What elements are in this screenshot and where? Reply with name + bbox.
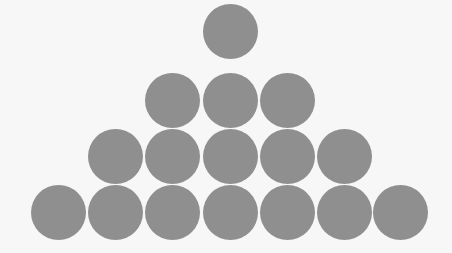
circle-row-4-item-7 — [373, 185, 428, 240]
circle-row-4-item-3 — [145, 185, 200, 240]
circle-row-4-item-5 — [260, 185, 315, 240]
circle-row-4-item-4 — [203, 185, 258, 240]
circle-row-2-item-1 — [145, 73, 200, 128]
circle-row-3-item-2 — [145, 129, 200, 184]
circle-row-4-item-2 — [88, 185, 143, 240]
circle-row-2-item-2 — [203, 73, 258, 128]
circle-row-3-item-4 — [260, 129, 315, 184]
circle-row-3-item-5 — [317, 129, 372, 184]
circle-row-3-item-1 — [88, 129, 143, 184]
circle-row-4-item-1 — [31, 185, 86, 240]
circle-row-2-item-3 — [260, 73, 315, 128]
circle-row-1-item-1 — [203, 4, 258, 59]
circle-triangle-diagram — [0, 0, 452, 253]
circle-row-3-item-3 — [203, 129, 258, 184]
circle-row-4-item-6 — [317, 185, 372, 240]
